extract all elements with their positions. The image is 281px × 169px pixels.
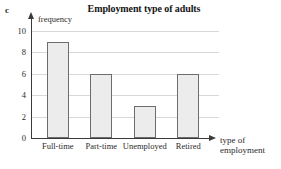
plot-area: 0246810 frequency type ofemployment Full… xyxy=(0,0,281,169)
y-tick-label: 0 xyxy=(4,134,26,143)
y-tick-label: 6 xyxy=(4,70,26,79)
x-axis-line xyxy=(31,138,211,139)
y-axis-label: frequency xyxy=(38,15,72,24)
gridline xyxy=(31,31,219,32)
x-axis-arrow-icon xyxy=(209,135,216,141)
chart-figure: c Employment type of adults 0246810 freq… xyxy=(0,0,281,169)
bar xyxy=(90,74,112,138)
x-axis-label: type ofemployment xyxy=(220,135,280,156)
x-axis-label-line: employment xyxy=(220,145,280,155)
y-axis-arrow-icon xyxy=(28,12,34,19)
y-tick-label: 8 xyxy=(4,48,26,57)
bar xyxy=(47,42,69,138)
y-tick-label: 10 xyxy=(4,27,26,36)
bar xyxy=(177,74,199,138)
y-tick-label: 2 xyxy=(4,113,26,122)
x-tick-label: Retired xyxy=(159,142,219,151)
y-tick-label: 4 xyxy=(4,91,26,100)
bar xyxy=(134,106,156,138)
x-axis-label-line: type of xyxy=(220,135,280,145)
y-axis-line xyxy=(31,18,32,139)
